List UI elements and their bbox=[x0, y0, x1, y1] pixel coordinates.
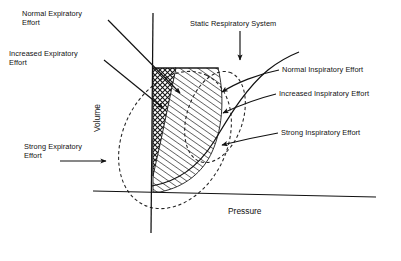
label-normal-inspiratory-effort-text: Normal Inspiratory Effort bbox=[282, 65, 363, 74]
label-strong-expiratory-effort: Strong ExpiratoryEffort bbox=[24, 142, 82, 160]
y-axis-label-text: Volume bbox=[92, 104, 102, 132]
leader-increased-inspiratory-effort bbox=[223, 94, 276, 113]
leader-normal-expiratory-effort bbox=[108, 20, 180, 93]
label-normal-inspiratory-effort: Normal Inspiratory Effort bbox=[282, 65, 363, 74]
pressure-volume-diagram: Normal ExpiratoryEffort Increased Expira… bbox=[0, 0, 401, 261]
label-static-respiratory-system: Static Respiratory System bbox=[190, 19, 276, 28]
x-axis bbox=[93, 191, 376, 197]
label-increased-expiratory-effort-line1: Increased Expiratory bbox=[9, 49, 78, 58]
y-axis-label: Volume bbox=[92, 104, 102, 132]
label-strong-expiratory-effort-line1: Strong Expiratory bbox=[24, 142, 82, 151]
label-increased-expiratory-effort: Increased ExpiratoryEffort bbox=[9, 49, 78, 67]
label-increased-expiratory-effort-line2: Effort bbox=[9, 58, 27, 67]
label-increased-inspiratory-effort: Increased Inspiratory Effort bbox=[279, 89, 369, 98]
label-normal-expiratory-effort: Normal ExpiratoryEffort bbox=[22, 9, 82, 27]
label-strong-expiratory-effort-line2: Effort bbox=[24, 151, 42, 160]
label-static-respiratory-system-text: Static Respiratory System bbox=[190, 19, 276, 28]
label-strong-inspiratory-effort: Strong Inspiratory Effort bbox=[281, 128, 360, 137]
label-strong-inspiratory-effort-text: Strong Inspiratory Effort bbox=[281, 128, 360, 137]
label-normal-expiratory-effort-line2: Effort bbox=[22, 18, 40, 27]
hatched-regions bbox=[152, 68, 222, 192]
label-normal-expiratory-effort-line1: Normal Expiratory bbox=[22, 9, 82, 18]
label-increased-inspiratory-effort-text: Increased Inspiratory Effort bbox=[279, 89, 369, 98]
x-axis-label-text: Pressure bbox=[228, 206, 262, 216]
leader-normal-inspiratory-effort bbox=[222, 70, 279, 92]
leader-strong-inspiratory-effort bbox=[222, 133, 278, 145]
x-axis-label: Pressure bbox=[228, 206, 262, 216]
